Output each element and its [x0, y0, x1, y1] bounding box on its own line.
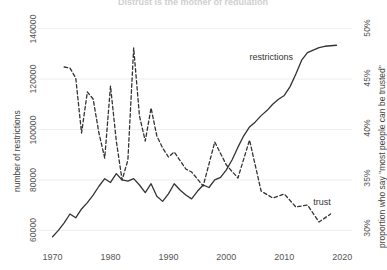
right-tick-label: 35%	[362, 169, 372, 186]
x-tick-label: 1980	[100, 252, 120, 262]
right-tick-label: 30%	[362, 219, 372, 236]
left-tick-label: 140000	[28, 14, 38, 43]
left-tick-label: 80000	[28, 168, 38, 192]
x-tick-label: 2010	[274, 252, 294, 262]
right-axis-title: proportion who say "most people can be t…	[377, 65, 387, 248]
x-tick-label: 1970	[43, 252, 63, 262]
series-label-restrictions: restrictions	[250, 52, 294, 62]
left-tick-label: 120000	[28, 65, 38, 94]
x-tick-label: 2000	[216, 252, 236, 262]
left-tick-label: 60000	[28, 218, 38, 242]
right-tick-label: 50%	[362, 19, 372, 36]
x-tick-label: 1990	[158, 252, 178, 262]
x-tick-label: 2020	[332, 252, 352, 262]
series-line-restrictions	[53, 45, 337, 236]
left-axis-title: number of restrictions	[12, 110, 22, 192]
series-label-trust: trust	[313, 197, 331, 207]
right-tick-label: 40%	[362, 119, 372, 136]
right-tick-label: 45%	[362, 69, 372, 86]
series-line-trust	[64, 48, 330, 222]
left-tick-label: 100000	[28, 115, 38, 144]
